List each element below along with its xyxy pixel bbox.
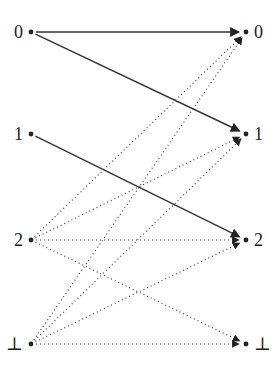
node-dot-Lbot [29, 342, 34, 347]
edge-Lbot-to-R1 [35, 139, 241, 341]
node-label-L1: 1 [14, 124, 23, 144]
edge-L2-to-Rbot [36, 242, 240, 341]
edge-L1-to-R2 [35, 136, 239, 237]
edge-L2-to-R0 [35, 37, 241, 237]
node-label-Lbot: ⊥ [6, 334, 23, 354]
edges [34, 32, 242, 344]
node-label-R1: 1 [254, 124, 263, 144]
edge-L2-to-R1 [35, 137, 239, 238]
node-dot-Rbot [244, 342, 249, 347]
node-label-R0: 0 [254, 22, 263, 42]
edge-Lbot-to-R2 [36, 243, 240, 342]
node-dot-R0 [244, 30, 249, 35]
node-dot-R2 [244, 238, 249, 243]
edge-L0-to-R1 [36, 34, 240, 131]
node-dot-L2 [29, 238, 34, 243]
node-label-L2: 2 [14, 230, 23, 250]
node-label-R2: 2 [254, 230, 263, 250]
node-dot-L1 [29, 132, 34, 137]
node-label-Rbot: ⊥ [254, 334, 271, 354]
node-label-L0: 0 [14, 22, 23, 42]
node-dot-R1 [244, 132, 249, 137]
node-dot-L0 [29, 30, 34, 35]
mapping-diagram: 012⊥012⊥ [0, 0, 279, 373]
